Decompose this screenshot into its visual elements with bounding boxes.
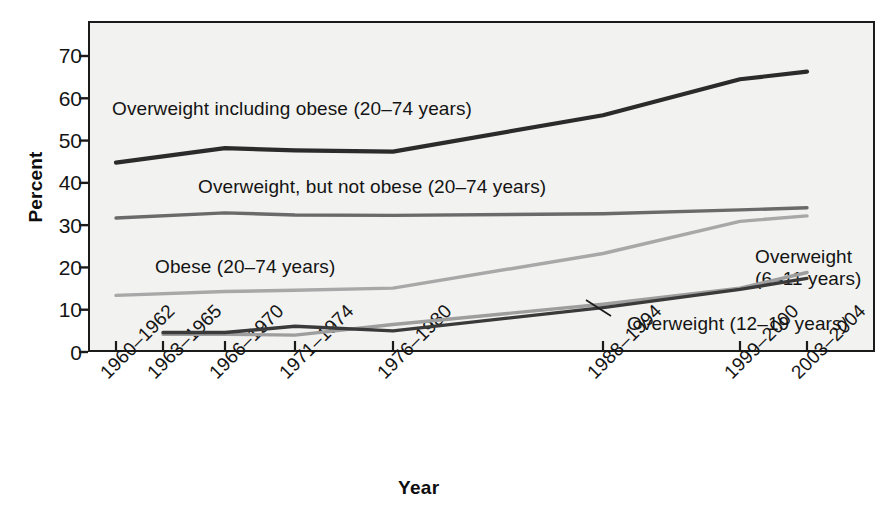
chart-canvas (0, 0, 896, 513)
x-axis-ticks (116, 341, 807, 352)
y-axis-ticks (79, 56, 88, 352)
chart-figure: 70 60 50 40 30 20 10 0 Percent 1960–1962… (0, 0, 896, 513)
series-lines (116, 72, 807, 335)
